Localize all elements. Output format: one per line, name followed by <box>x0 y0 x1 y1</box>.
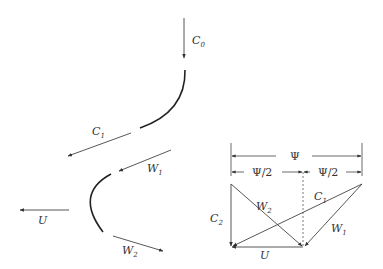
w2-label-right: W2 <box>256 200 272 215</box>
c0-label: C0 <box>192 34 205 49</box>
nozzle-blade <box>140 70 185 128</box>
w1-label: W1 <box>147 162 163 177</box>
c1-label: C1 <box>92 125 105 140</box>
w2-vector <box>231 184 302 246</box>
psi-half-left-label: Ψ/2 <box>252 166 272 179</box>
u-label-right: U <box>260 249 270 262</box>
psi-half-right-label: Ψ/2 <box>318 166 338 179</box>
c2-label: C2 <box>210 212 223 227</box>
rotor-blade <box>90 174 111 232</box>
w2-label: W2 <box>122 244 138 259</box>
velocity-diagram: C0 C1 W1 U W2 Ψ Ψ/2 Ψ/2 C2 W2 C1 W1 <box>0 0 383 269</box>
blade-schematic: C0 C1 W1 U W2 <box>20 18 205 259</box>
psi-label: Ψ <box>290 150 300 163</box>
u-label: U <box>38 214 48 227</box>
w1-arrow <box>119 150 171 171</box>
w2-arrow <box>113 236 163 251</box>
c1-label-right: C1 <box>314 190 327 205</box>
velocity-triangles: Ψ Ψ/2 Ψ/2 C2 W2 C1 W1 U <box>210 143 362 262</box>
w1-label-right: W1 <box>331 222 347 237</box>
